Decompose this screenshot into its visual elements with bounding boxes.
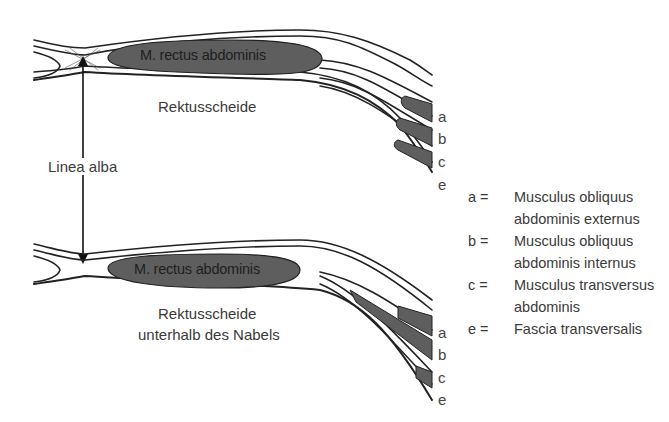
upper-letter-e: e [438,176,446,193]
legend-entry-a-cont: abdominis externus [468,208,654,230]
lower-muscle-label: M. rectus abdominis [134,261,260,277]
upper-letter-a: a [438,108,446,125]
legend-text: Musculus obliquus [514,186,633,208]
upper-letter-b: b [438,130,446,147]
legend-text: Musculus obliquus [514,230,633,252]
legend-key: a = [468,186,514,208]
legend-entry-b: b = Musculus obliquus [468,230,654,252]
legend-text: abdominis [514,296,580,318]
lower-letter-a: a [438,324,446,341]
upper-muscle-label: M. rectus abdominis [140,47,266,63]
legend-text: abdominis internus [514,252,636,274]
legend-key: e = [468,318,514,340]
legend-text: Musculus transversus [514,274,654,296]
lower-sheath-label-line1: Rektusscheide [158,305,256,322]
legend-entry-e: e = Fascia transversalis [468,318,654,340]
legend: a = Musculus obliquus abdominis externus… [468,186,654,340]
legend-entry-a: a = Musculus obliquus [468,186,654,208]
lower-letter-c: c [438,369,446,386]
upper-letter-c: c [438,153,446,170]
legend-entry-c: c = Musculus transversus [468,274,654,296]
legend-entry-b-cont: abdominis internus [468,252,654,274]
upper-sheath-label: Rektusscheide [158,98,256,115]
lower-letter-b: b [438,346,446,363]
legend-entry-c-cont: abdominis [468,296,654,318]
legend-key: b = [468,230,514,252]
legend-text: abdominis externus [514,208,640,230]
lower-sheath-label-line2: unterhalb des Nabels [138,326,280,343]
legend-key: c = [468,274,514,296]
lower-letter-e: e [438,391,446,408]
linea-alba-label: Linea alba [46,158,119,175]
legend-text: Fascia transversalis [514,318,642,340]
